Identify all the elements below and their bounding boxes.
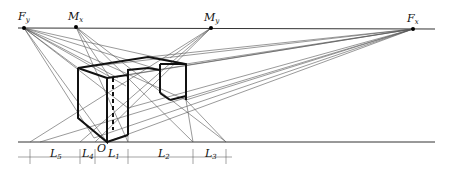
construction-lines-fx bbox=[40, 29, 413, 142]
ground-projection-lines bbox=[128, 100, 226, 142]
label-mx: Mx bbox=[67, 10, 83, 24]
label-my: My bbox=[203, 11, 220, 25]
point-fx bbox=[411, 27, 415, 31]
perspective-diagram: Fy Mx My Fx O L5 L4 L1 L2 L3 bbox=[0, 0, 452, 180]
point-mx bbox=[74, 25, 78, 29]
label-l5: L5 bbox=[49, 147, 62, 161]
point-my bbox=[209, 26, 213, 30]
label-l1: L1 bbox=[107, 147, 120, 161]
label-l3: L3 bbox=[204, 147, 217, 161]
label-fy: Fy bbox=[17, 10, 31, 24]
label-fx: Fx bbox=[406, 12, 419, 26]
point-fy bbox=[22, 26, 26, 30]
label-l4: L4 bbox=[81, 147, 94, 161]
horizon-line bbox=[18, 28, 435, 29]
construction-lines-fy bbox=[24, 28, 186, 142]
construction-lines-mx bbox=[76, 27, 226, 142]
label-l2: L2 bbox=[157, 147, 170, 161]
label-origin: O bbox=[97, 142, 106, 155]
